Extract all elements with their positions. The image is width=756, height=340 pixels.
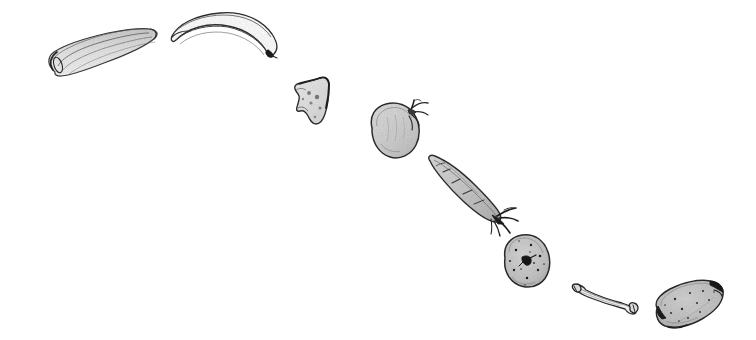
- potato: [505, 235, 550, 287]
- sketch-canvas: Hand-drawn pencil sketch of assorted foo…: [0, 0, 756, 340]
- food-sketch-illustration: [0, 0, 756, 340]
